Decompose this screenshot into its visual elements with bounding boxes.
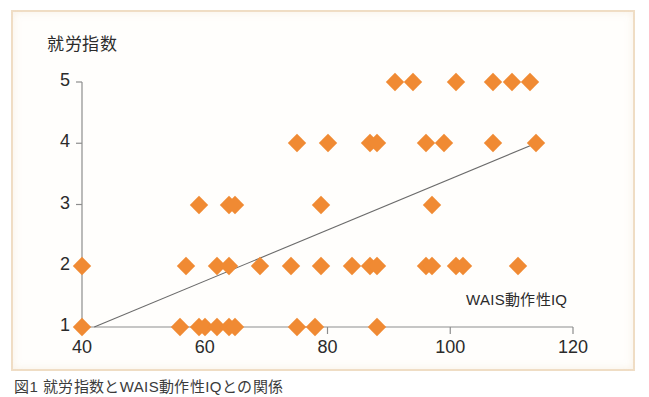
y-tick-label: 1 <box>44 315 70 336</box>
x-tick-label: 80 <box>305 337 351 358</box>
figure-page: 就労指数 WAIS動作性IQ 12345 406080100120 図1 就労指… <box>0 0 649 397</box>
y-tick-label: 3 <box>44 193 70 214</box>
figure-caption-text: 図1 就労指数とWAIS動作性IQとの関係 <box>14 378 314 395</box>
x-tick-label: 60 <box>182 337 228 358</box>
y-tick-label: 5 <box>44 70 70 91</box>
y-tick-label: 2 <box>44 254 70 275</box>
x-tick-label: 120 <box>550 337 596 358</box>
x-tick-label: 40 <box>59 337 105 358</box>
y-tick-label: 4 <box>44 131 70 152</box>
figure-caption: 図1 就労指数とWAIS動作性IQとの関係 <box>14 378 314 395</box>
x-axis-title: WAIS動作性IQ <box>466 288 567 309</box>
y-axis-title: 就労指数 <box>47 30 117 55</box>
x-tick-label: 100 <box>427 337 473 358</box>
